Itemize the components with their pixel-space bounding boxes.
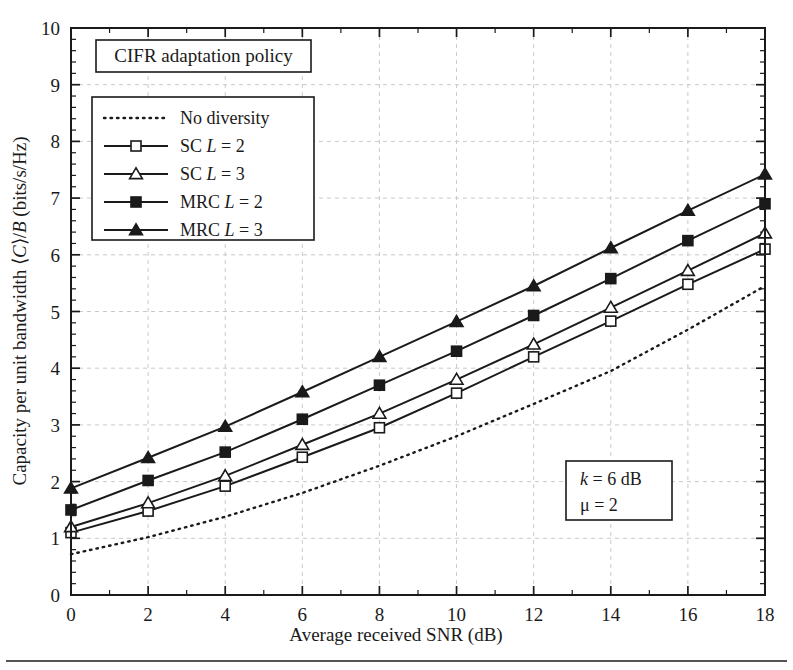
data-point-marker — [683, 236, 693, 246]
y-tick-label: 4 — [51, 358, 61, 379]
y-tick-label: 3 — [51, 415, 61, 436]
x-axis-tick-labels: 024681012141618 — [66, 604, 774, 625]
data-point-marker — [529, 352, 539, 362]
x-tick-label: 6 — [298, 604, 308, 625]
capacity-vs-snr-chart: 024681012141618 012345678910 CIFR adapta… — [0, 0, 793, 670]
figure-container: 024681012141618 012345678910 CIFR adapta… — [0, 0, 793, 670]
y-tick-label: 0 — [51, 585, 61, 606]
parameter-mu-label: μ = 2 — [580, 495, 618, 515]
data-point-marker — [683, 279, 693, 289]
x-tick-label: 4 — [220, 604, 230, 625]
legend-item-label: MRC L = 2 — [180, 192, 263, 212]
y-tick-label: 8 — [51, 131, 61, 152]
title-box-label: CIFR adaptation policy — [114, 45, 293, 66]
legend-item-label: No diversity — [180, 108, 270, 128]
data-point-marker — [452, 346, 462, 356]
data-point-marker — [131, 141, 141, 151]
legend-item-label: MRC L = 3 — [180, 220, 263, 240]
parameter-k-label: k = 6 dB — [580, 469, 642, 489]
y-tick-label: 10 — [41, 18, 60, 39]
x-tick-label: 10 — [447, 604, 466, 625]
x-tick-label: 2 — [143, 604, 153, 625]
title-box: CIFR adaptation policy — [96, 40, 311, 72]
x-tick-label: 16 — [678, 604, 697, 625]
legend: No diversitySC L = 2SC L = 3MRC L = 2MRC… — [92, 97, 314, 240]
y-axis-title: Capacity per unit bandwidth ⟨C⟩/B (bits/… — [9, 136, 31, 485]
x-tick-label: 0 — [66, 604, 76, 625]
y-tick-label: 6 — [51, 245, 61, 266]
y-tick-label: 1 — [51, 528, 61, 549]
legend-item-label: SC L = 3 — [180, 164, 245, 184]
data-point-marker — [143, 475, 153, 485]
x-tick-label: 14 — [601, 604, 621, 625]
x-tick-label: 18 — [756, 604, 775, 625]
y-tick-label: 9 — [51, 75, 61, 96]
data-point-marker — [452, 388, 462, 398]
data-point-marker — [220, 447, 230, 457]
y-tick-label: 7 — [51, 188, 61, 209]
data-point-marker — [529, 310, 539, 320]
data-point-marker — [606, 274, 616, 284]
data-point-marker — [374, 380, 384, 390]
y-tick-label: 2 — [51, 472, 61, 493]
x-tick-label: 8 — [375, 604, 385, 625]
x-tick-label: 12 — [524, 604, 543, 625]
data-point-marker — [297, 452, 307, 462]
legend-item-label: SC L = 2 — [180, 136, 245, 156]
y-tick-label: 5 — [51, 302, 61, 323]
data-point-marker — [297, 414, 307, 424]
x-axis-title: Average received SNR (dB) — [289, 624, 502, 646]
data-point-marker — [220, 481, 230, 491]
data-point-marker — [374, 423, 384, 433]
data-point-marker — [606, 316, 616, 326]
data-point-marker — [131, 197, 141, 207]
y-axis-tick-labels: 012345678910 — [41, 18, 61, 606]
parameter-annotation-box: k = 6 dB μ = 2 — [566, 461, 672, 520]
